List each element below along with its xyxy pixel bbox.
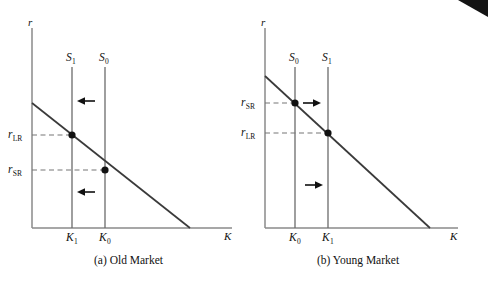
demand-curve-young: [265, 76, 430, 228]
tick-label-rsr-young: rSR: [241, 97, 255, 109]
x-axis-label-young: K: [450, 231, 457, 242]
demand-curve-old: [32, 103, 190, 228]
tick-label-rlr-young: rLR: [241, 127, 255, 139]
tick-label-rlr-old: rLR: [8, 129, 22, 141]
supply-label-s1-young: S1: [322, 52, 332, 64]
scan-corner-artifact: [458, 0, 488, 17]
panel-old-market: [32, 28, 232, 228]
tick-label-k1-old: K1: [66, 232, 77, 244]
y-axis-label-old: r: [28, 17, 32, 28]
caption-old-market: (a) Old Market: [94, 255, 163, 267]
supply-label-s1-old: S1: [66, 52, 76, 64]
supply-label-s0-young: S0: [289, 52, 299, 64]
y-axis-label-young: r: [261, 17, 265, 28]
tick-label-rsr-old: rSR: [8, 164, 22, 176]
tick-label-k1-young: K1: [322, 232, 333, 244]
tick-label-k0-young: K0: [289, 232, 300, 244]
shift-arrow-upper-old: [77, 97, 95, 104]
shift-arrow-upper-young: [303, 99, 321, 106]
supply-label-s0-old: S0: [99, 52, 109, 64]
equilibrium-point-sr-old: [101, 166, 108, 173]
caption-young-market: (b) Young Market: [317, 255, 399, 267]
figure-root: r K S1 S0 rLR rSR K1 K0 (a) Old Market r…: [0, 0, 488, 287]
equilibrium-point-sr-young: [291, 99, 298, 106]
x-axis-label-old: K: [224, 231, 231, 242]
equilibrium-point-lr-old: [68, 131, 75, 138]
shift-arrow-lower-young: [305, 181, 323, 188]
shift-arrow-lower-old: [77, 188, 95, 195]
equilibrium-point-lr-young: [324, 129, 331, 136]
tick-label-k0-old: K0: [99, 232, 110, 244]
